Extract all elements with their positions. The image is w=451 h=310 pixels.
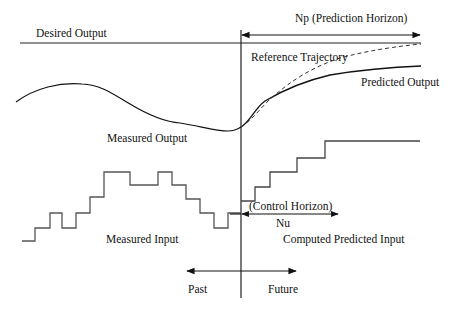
label-prediction-horizon: Np (Prediction Horizon) bbox=[295, 13, 407, 25]
label-past: Past bbox=[188, 284, 207, 296]
diagram-canvas bbox=[0, 0, 451, 310]
label-reference-trajectory: Reference Trajectory bbox=[251, 52, 348, 64]
computed-input-steps bbox=[241, 141, 420, 201]
label-predicted-output: Predicted Output bbox=[361, 77, 439, 89]
label-future: Future bbox=[268, 284, 298, 296]
label-measured-input: Measured Input bbox=[106, 234, 179, 246]
mpc-diagram: Desired Output Np (Prediction Horizon) R… bbox=[0, 0, 451, 310]
measured-input-steps bbox=[22, 172, 241, 241]
label-control-horizon: (Control Horizon) bbox=[249, 201, 332, 213]
label-desired-output: Desired Output bbox=[36, 28, 107, 40]
label-computed-predicted-input: Computed Predicted Input bbox=[283, 234, 404, 246]
label-measured-output: Measured Output bbox=[107, 133, 187, 145]
measured-output-curve bbox=[16, 84, 241, 131]
label-nu: Nu bbox=[276, 218, 290, 230]
